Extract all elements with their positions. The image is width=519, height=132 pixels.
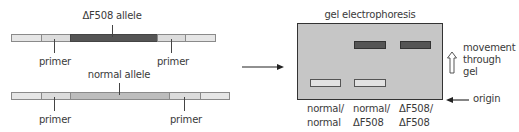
gel-band-mutant (400, 41, 431, 49)
lane-label-2: normal/ ΔF508 (353, 103, 390, 129)
movement-up-arrow-icon (448, 52, 457, 73)
process-arrow-icon (242, 64, 284, 70)
gel-band-normal (354, 79, 386, 87)
origin-label: origin (473, 93, 500, 105)
gel-band-mutant (354, 41, 386, 49)
gel-title: gel electrophoresis (324, 9, 415, 21)
origin-arrow-icon (446, 97, 469, 103)
lane-label-3: ΔF508/ ΔF508 (399, 103, 433, 129)
gel-box (297, 23, 443, 100)
gel-band-normal (310, 79, 341, 87)
movement-label: movement through gel (463, 42, 515, 78)
lane-label-1: normal/ normal (307, 103, 344, 129)
